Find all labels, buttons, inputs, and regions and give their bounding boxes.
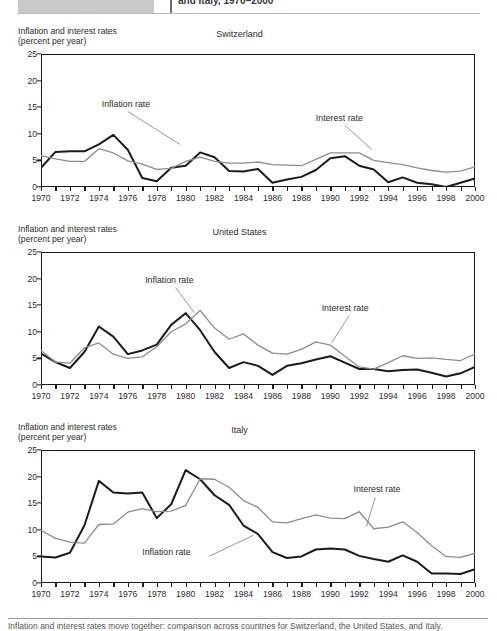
annotation-label: Inflation rate <box>102 99 150 109</box>
x-tick-mark <box>200 385 201 389</box>
x-tick-label: 2000 <box>465 193 484 203</box>
x-tick-mark <box>432 187 433 191</box>
page-footer-strip: Inflation and interest rates move togeth… <box>0 616 497 631</box>
x-tick-label: 1988 <box>292 589 311 599</box>
y-tick-label: 15 <box>11 102 37 112</box>
x-tick-mark <box>475 385 476 389</box>
x-tick-label: 1978 <box>147 391 166 401</box>
series-line-inflation <box>41 470 475 574</box>
x-tick-mark <box>113 583 114 587</box>
x-tick-mark <box>403 583 404 587</box>
y-tick-label: 5 <box>11 155 37 165</box>
header-rule <box>18 13 480 14</box>
x-tick-mark <box>186 385 187 389</box>
x-tick-mark <box>41 187 42 191</box>
x-tick-label: 1996 <box>408 391 427 401</box>
x-tick-mark <box>316 583 317 587</box>
x-tick-mark <box>41 583 42 587</box>
x-tick-mark <box>359 385 360 389</box>
y-tick-label: 10 <box>11 327 37 337</box>
x-tick-mark <box>142 583 143 587</box>
x-tick-mark <box>229 385 230 389</box>
x-tick-mark <box>55 583 56 587</box>
x-tick-mark <box>258 385 259 389</box>
y-tick-label: 20 <box>11 274 37 284</box>
x-tick-mark <box>330 583 331 587</box>
x-tick-label: 1992 <box>350 589 369 599</box>
x-tick-mark <box>70 187 71 191</box>
panel-title: United States <box>0 227 497 237</box>
x-tick-label: 1998 <box>437 589 456 599</box>
x-tick-label: 1996 <box>408 193 427 203</box>
x-tick-mark <box>258 187 259 191</box>
x-tick-mark <box>84 187 85 191</box>
x-tick-label: 1982 <box>205 193 224 203</box>
annotation-label: Inflation rate <box>145 275 193 285</box>
x-tick-mark <box>461 583 462 587</box>
x-tick-label: 1972 <box>60 193 79 203</box>
x-tick-label: 1976 <box>118 391 137 401</box>
x-tick-mark <box>287 583 288 587</box>
x-tick-mark <box>432 583 433 587</box>
x-tick-mark <box>388 583 389 587</box>
x-tick-label: 1986 <box>263 589 282 599</box>
x-tick-mark <box>301 583 302 587</box>
y-tick-label: 20 <box>11 76 37 86</box>
x-tick-mark <box>258 583 259 587</box>
plot-area: 0510152025Inflation rateInterest rate <box>41 450 475 583</box>
x-tick-label: 1984 <box>234 589 253 599</box>
x-tick-mark <box>417 583 418 587</box>
x-tick-mark <box>345 187 346 191</box>
annotation-leader-line <box>367 497 376 526</box>
x-tick-mark <box>359 187 360 191</box>
x-tick-mark <box>157 583 158 587</box>
x-tick-mark <box>84 385 85 389</box>
page-header-strip: and Italy, 1970–2000 <box>0 0 497 17</box>
grey-placeholder-block-icon <box>18 0 154 13</box>
x-tick-label: 1970 <box>31 193 50 203</box>
annotation-label: Interest rate <box>316 113 363 123</box>
x-tick-mark <box>171 583 172 587</box>
x-tick-mark <box>128 583 129 587</box>
y-tick-label: 15 <box>11 300 37 310</box>
panel-title-text: Switzerland <box>216 29 263 39</box>
x-tick-mark <box>301 385 302 389</box>
series-line-inflation <box>41 135 475 187</box>
x-tick-label: 1990 <box>321 193 340 203</box>
series-lines <box>41 54 475 187</box>
x-tick-mark <box>330 187 331 191</box>
x-tick-label: 1988 <box>292 391 311 401</box>
series-line-interest <box>41 479 475 558</box>
x-tick-mark <box>70 583 71 587</box>
x-tick-mark <box>99 385 100 389</box>
x-tick-mark <box>186 583 187 587</box>
x-tick-label: 1994 <box>379 193 398 203</box>
x-tick-label: 1970 <box>31 391 50 401</box>
x-tick-mark <box>113 385 114 389</box>
x-tick-mark <box>461 385 462 389</box>
series-line-interest <box>41 311 475 370</box>
x-tick-mark <box>432 385 433 389</box>
x-tick-mark <box>113 187 114 191</box>
x-tick-mark <box>128 385 129 389</box>
panel-title-text: Italy <box>231 425 248 435</box>
x-tick-label: 1992 <box>350 391 369 401</box>
x-tick-label: 1980 <box>176 193 195 203</box>
panel-title-text: United States <box>212 227 266 237</box>
x-tick-label: 1994 <box>379 391 398 401</box>
annotation-leader-line <box>176 288 195 313</box>
y-tick-label: 20 <box>11 472 37 482</box>
x-tick-mark <box>316 187 317 191</box>
x-tick-mark <box>200 187 201 191</box>
x-tick-mark <box>142 187 143 191</box>
x-tick-label: 1972 <box>60 391 79 401</box>
x-tick-label: 1978 <box>147 589 166 599</box>
x-tick-mark <box>359 583 360 587</box>
x-tick-mark <box>403 385 404 389</box>
x-tick-label: 2000 <box>465 391 484 401</box>
x-tick-label: 1980 <box>176 589 195 599</box>
x-tick-mark <box>215 583 216 587</box>
y-tick-label: 10 <box>11 129 37 139</box>
x-tick-mark <box>287 187 288 191</box>
chart-panel-switzerland: Inflation and interest rates (percent pe… <box>0 26 497 225</box>
